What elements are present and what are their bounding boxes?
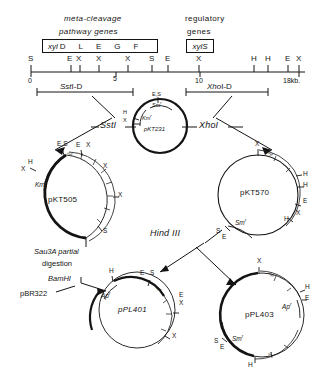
plasmid-pbr322-graphic — [0, 0, 317, 378]
plasmid-construction-figure: meta-cleavage pathway genes regulatory g… — [0, 0, 317, 378]
